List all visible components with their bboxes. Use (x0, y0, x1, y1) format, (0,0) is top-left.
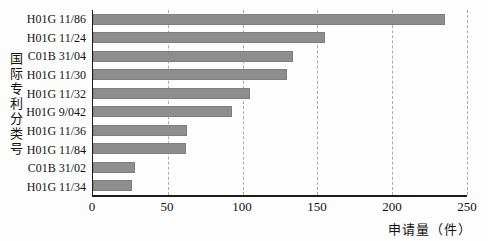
bar (93, 32, 325, 43)
x-tick-label: 0 (89, 199, 96, 215)
x-tick-label: 50 (161, 199, 174, 215)
category-label: C01B 31/04 (0, 47, 86, 66)
x-axis-label: 申请量（件） (388, 219, 472, 238)
category-label: H01G 11/30 (0, 66, 86, 85)
bar-row (93, 103, 467, 122)
category-label: H01G 11/34 (0, 178, 86, 197)
bar-row (93, 29, 467, 48)
category-label: H01G 11/32 (0, 85, 86, 104)
bar (93, 14, 445, 25)
bar-row (93, 177, 467, 196)
category-label: C01B 31/02 (0, 160, 86, 179)
bar (93, 88, 250, 99)
bar (93, 162, 135, 173)
bar-row (93, 66, 467, 85)
bar (93, 106, 232, 117)
bar-row (93, 47, 467, 66)
category-label: H01G 11/24 (0, 29, 86, 48)
category-label: H01G 11/36 (0, 122, 86, 141)
x-tick-label: 250 (457, 199, 477, 215)
x-tick-label: 150 (307, 199, 327, 215)
bar (93, 69, 287, 80)
category-label: H01G 11/86 (0, 10, 86, 29)
bar-row (93, 10, 467, 29)
category-labels: H01G 11/86H01G 11/24C01B 31/04H01G 11/30… (0, 10, 86, 197)
patent-bar-chart: 国际专利分类号 H01G 11/86H01G 11/24C01B 31/04H0… (0, 0, 488, 241)
bars (93, 10, 467, 195)
category-label: H01G 11/84 (0, 141, 86, 160)
bar-row (93, 140, 467, 159)
bar (93, 143, 186, 154)
x-tick-label: 200 (382, 199, 402, 215)
bar-row (93, 84, 467, 103)
bar (93, 180, 132, 191)
bar (93, 125, 187, 136)
gridline (467, 10, 468, 195)
x-tick-label: 100 (232, 199, 252, 215)
x-axis-tick-labels: 050100150200250 (92, 199, 467, 215)
bar-row (93, 158, 467, 177)
plot-area (92, 10, 467, 197)
bar (93, 51, 293, 62)
bar-row (93, 121, 467, 140)
category-label: H01G 9/042 (0, 104, 86, 123)
